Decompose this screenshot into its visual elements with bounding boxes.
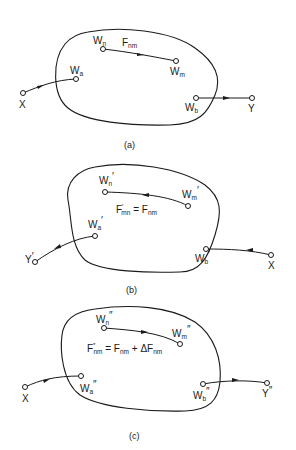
caption-a: (a) — [124, 140, 135, 150]
node-wm — [186, 204, 191, 209]
node-wn — [102, 326, 107, 331]
panel-b: Wn′ Wm′ F′mn = Fnm Wa′ Y′ Wb′ X (b) — [25, 164, 275, 295]
label-wm: Wm — [170, 66, 185, 78]
label-wn: Wn — [93, 35, 106, 47]
edge-x-wa — [23, 79, 76, 93]
label-wn: Wn″ — [96, 310, 113, 326]
label-wb: Wb′ — [195, 249, 210, 265]
node-wb — [201, 382, 206, 387]
panel-a: Wn Fnm Wm Wa X Wb Y (a) — [19, 29, 255, 150]
node-wn — [101, 47, 106, 52]
node-wn — [103, 190, 108, 195]
node-x — [269, 253, 274, 258]
arrowhead-icon — [232, 378, 239, 382]
node-x — [23, 385, 28, 390]
label-wm: Wm″ — [172, 324, 191, 340]
panel-c: Wn″ Wm″ F″nm = Fnm + ΔFnm Wa″ X Wb″ Y″ (… — [22, 307, 273, 441]
label-wa: Wa′ — [88, 215, 103, 231]
arrowhead-icon — [142, 193, 149, 197]
node-x — [21, 91, 26, 96]
label-wa: Wa″ — [80, 379, 97, 395]
arrowhead-icon — [37, 85, 44, 89]
label-wn: Wn′ — [99, 171, 114, 187]
edge-x-wa — [25, 376, 81, 387]
label-x: X — [268, 260, 275, 271]
node-wa — [79, 374, 84, 379]
node-wa — [74, 77, 79, 82]
node-y — [250, 96, 255, 101]
label-wb: Wb — [185, 102, 198, 114]
label-y: Y — [248, 103, 255, 114]
node-wm — [178, 342, 183, 347]
arrowhead-icon — [54, 244, 61, 249]
edge-x-wb — [206, 249, 271, 255]
label-y: Y″ — [262, 385, 273, 399]
caption-c: (c) — [129, 431, 140, 441]
arrowhead-icon — [223, 96, 230, 100]
edge-wb-y — [203, 381, 267, 384]
equation-b: F′mn = Fnm — [116, 203, 157, 216]
label-x: X — [22, 393, 29, 404]
equation-c: F″nm = Fnm + ΔFnm — [87, 342, 162, 355]
label-x: X — [19, 99, 26, 110]
caption-b: (b) — [126, 285, 137, 295]
label-wa: Wa — [70, 65, 83, 77]
network-diagram: Wn Fnm Wm Wa X Wb Y (a) Wn′ Wm′ F′mn = F… — [0, 0, 296, 450]
edge-wa-y — [35, 236, 95, 262]
label-fnm: Fnm — [122, 37, 137, 49]
node-wm — [174, 59, 179, 64]
label-wb: Wb″ — [193, 386, 210, 402]
node-wb — [194, 96, 199, 101]
arrowhead-icon — [141, 330, 148, 334]
label-wm: Wm′ — [182, 185, 199, 201]
node-wa — [93, 234, 98, 239]
